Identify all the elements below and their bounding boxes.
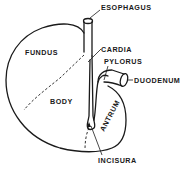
esophagus-leader [90,10,100,18]
stomach-diagram: ESOPHAGUS FUNDUS CARDIA PYLORUS DUODENUM… [0,0,183,169]
esophagus-opening [84,19,93,24]
label-cardia: CARDIA [101,45,132,54]
greater-curvature [6,24,126,152]
cardia-leader [88,49,101,62]
duodenum-opening [119,73,129,87]
lesser-curvature-left [87,60,90,128]
pylorus-leader [104,66,108,80]
stomach-illustration: ESOPHAGUS FUNDUS CARDIA PYLORUS DUODENUM… [0,0,183,169]
label-body: BODY [50,97,73,106]
incisura-boundary [85,128,89,150]
label-incisura: INCISURA [98,156,137,165]
pylorus-lower [104,82,122,86]
label-pylorus: PYLORUS [104,57,142,66]
label-fundus: FUNDUS [25,48,58,57]
label-esophagus: ESOPHAGUS [101,3,151,12]
label-antrum: ANTRUM [98,99,122,133]
label-duodenum: DUODENUM [134,76,180,85]
